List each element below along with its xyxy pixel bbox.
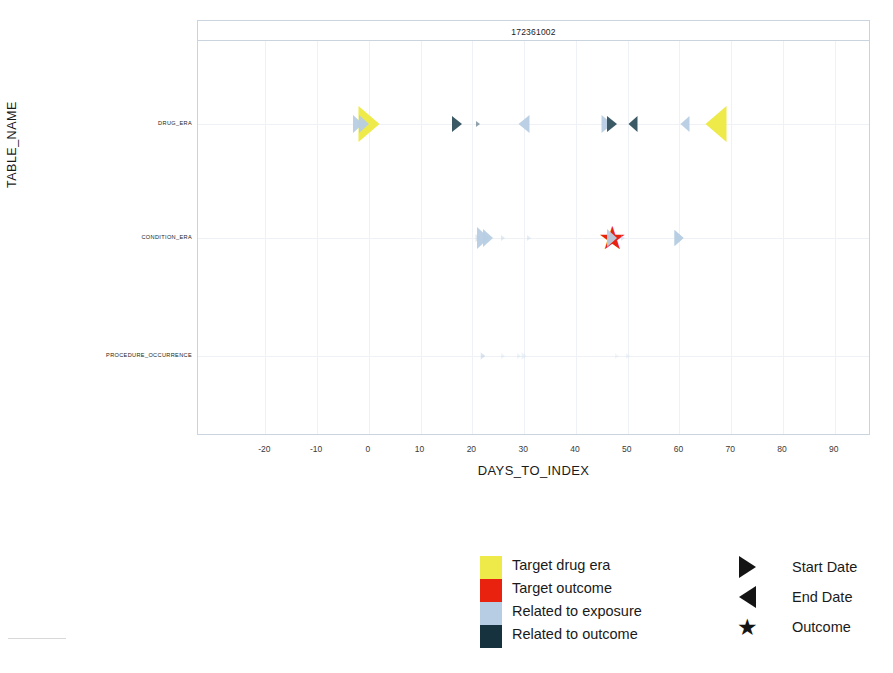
marker-end-date [519,115,530,133]
marker-start-date [607,116,617,132]
marker-start-date [626,353,630,359]
x-axis-tick-neg20: -20 [258,444,270,454]
legend-shape-label-1: End Date [774,589,852,605]
x-axis-tick-0: 0 [365,444,370,454]
marker-start-date [452,116,462,132]
x-axis-tick-neg10: -10 [310,444,322,454]
legend-color-label-0: Target drug era [512,552,642,575]
marker-start-date [675,230,684,246]
panel-title-strip: 172361002 [198,21,869,41]
gridline-horizontal [198,124,869,125]
legend-swatch-column [480,556,502,648]
legend-shape-row-0: Start Date [720,552,857,582]
legend-swatch-3 [480,625,502,648]
marker-end-date [628,116,637,132]
x-axis-tick-60: 60 [674,444,683,454]
legend: Target drug eraTarget outcomeRelated to … [480,552,880,662]
x-axis-tick-20: 20 [467,444,476,454]
marker-start-date [501,235,505,241]
gridline-horizontal [198,356,869,357]
y-axis-tick-procedure-occurrence: PROCEDURE_OCCURRENCE [106,352,192,358]
marker-end-date [680,116,689,132]
marker-start-date [476,121,480,127]
marker-start-date [607,229,617,247]
marker-start-date [359,115,369,133]
gridline-horizontal [198,238,869,239]
x-axis-tick-30: 30 [518,444,527,454]
legend-color-label-column: Target drug eraTarget outcomeRelated to … [512,552,642,644]
legend-shape-row-1: End Date [720,582,857,612]
marker-start-date [615,353,619,359]
triangle-right-icon-glyph [739,556,756,578]
x-axis-tick-40: 40 [570,444,579,454]
y-axis-tick-labels: DRUG_ERACONDITION_ERAPROCEDURE_OCCURRENC… [0,0,192,673]
x-axis-title: DAYS_TO_INDEX [197,463,870,478]
star-icon: ★ [720,616,774,639]
marker-start-date [522,352,527,360]
legend-shape-label-2: Outcome [774,619,851,635]
star-icon-glyph: ★ [737,616,758,639]
marker-start-date [621,235,625,241]
legend-color-label-2: Related to exposure [512,598,642,621]
x-axis-tick-90: 90 [829,444,838,454]
marker-start-date [475,234,480,242]
legend-color-label-3: Related to outcome [512,621,642,644]
marker-start-date [483,229,493,247]
legend-shape-label-0: Start Date [774,559,857,575]
x-axis-tick-50: 50 [622,444,631,454]
x-axis-tick-70: 70 [725,444,734,454]
legend-swatch-0 [480,556,502,579]
triangle-left-icon-glyph [739,586,756,608]
y-axis-title: TABLE_NAME [5,101,19,188]
page-divider [8,638,66,639]
marker-start-date [527,235,531,241]
legend-swatch-2 [480,602,502,625]
scatter-plot-panel: 172361002 ★ [197,20,870,435]
x-axis-tick-labels: -20-100102030405060708090 [0,444,893,458]
x-axis-tick-10: 10 [415,444,424,454]
y-axis-tick-condition-era: CONDITION_ERA [141,234,192,240]
marker-end-date [705,106,726,142]
marker-start-date [481,353,485,359]
triangle-right-icon [720,556,774,578]
legend-swatch-1 [480,579,502,602]
marker-start-date [517,353,521,359]
marker-start-date [501,353,505,359]
legend-shape-group: Start DateEnd Date★Outcome [720,552,857,642]
x-axis-tick-80: 80 [777,444,786,454]
panel-title: 172361002 [511,27,555,37]
legend-color-label-1: Target outcome [512,575,642,598]
legend-shape-row-2: ★Outcome [720,612,857,642]
y-axis-tick-drug-era: DRUG_ERA [158,120,192,126]
triangle-left-icon [720,586,774,608]
